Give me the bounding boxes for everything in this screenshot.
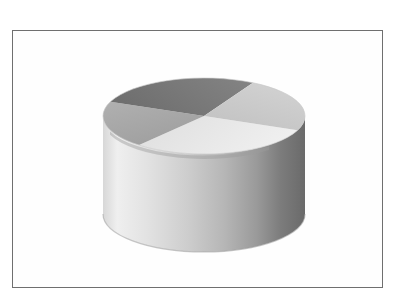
pie-top-surface [103,78,305,154]
figure-root [0,0,411,307]
pie-chart-3d [0,0,411,307]
